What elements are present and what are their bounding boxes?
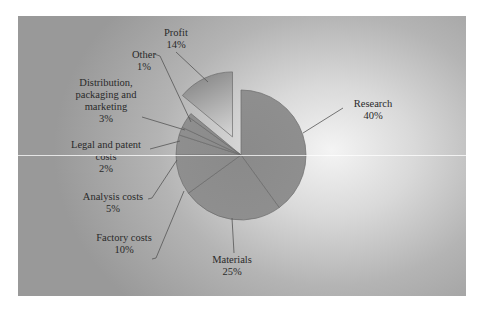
label-other-name: Other xyxy=(132,49,156,60)
label-distribution-line3: marketing xyxy=(85,101,128,112)
label-research-name: Research xyxy=(354,98,393,109)
label-legal-line2: costs xyxy=(96,151,117,162)
label-legal-pct: 2% xyxy=(99,163,113,174)
chart-area: Research 40% Materials 25% Factory costs… xyxy=(18,16,466,296)
leader-factory xyxy=(152,191,184,259)
leader-other xyxy=(154,54,191,122)
scan-line-artifact xyxy=(18,155,466,156)
label-profit-pct: 14% xyxy=(166,39,186,50)
label-distribution-pct: 3% xyxy=(99,113,113,124)
label-factory-pct: 10% xyxy=(114,244,134,255)
label-distribution-line1: Distribution, xyxy=(79,77,132,88)
pie-slices xyxy=(176,72,306,220)
label-materials-pct: 25% xyxy=(222,266,242,277)
leader-research xyxy=(303,108,343,133)
leader-distribution xyxy=(142,117,185,130)
label-distribution-line2: packaging and xyxy=(76,89,138,100)
label-analysis-pct: 5% xyxy=(106,203,120,214)
label-legal-line1: Legal and patent xyxy=(71,139,141,150)
leader-legal xyxy=(150,141,180,149)
label-materials-name: Materials xyxy=(212,254,252,265)
leader-profit xyxy=(176,52,208,82)
label-analysis-name: Analysis costs xyxy=(83,191,143,202)
label-profit-name: Profit xyxy=(164,27,188,38)
label-factory-name: Factory costs xyxy=(96,232,152,243)
leader-analysis xyxy=(148,160,177,199)
label-research-pct: 40% xyxy=(363,110,383,121)
label-other-pct: 1% xyxy=(137,61,151,72)
leader-materials xyxy=(232,218,234,253)
pie-chart: Research 40% Materials 25% Factory costs… xyxy=(18,16,466,296)
